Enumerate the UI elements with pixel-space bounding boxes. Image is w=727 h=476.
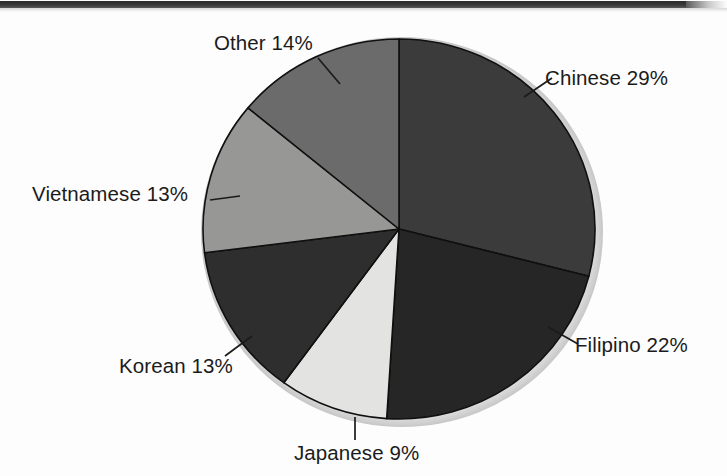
pie-label-filipino: Filipino 22%: [575, 335, 688, 356]
pie-label-japanese: Japanese 9%: [294, 443, 419, 464]
pie-label-korean: Korean 13%: [119, 356, 233, 377]
pie-label-vietnamese: Vietnamese 13%: [32, 184, 188, 205]
pie-slices-group: [203, 39, 595, 419]
pie-label-chinese: Chinese 29%: [545, 68, 668, 89]
pie-label-other: Other 14%: [214, 33, 313, 54]
pie-chart-page: Other 14% Chinese 29% Filipino 22% Japan…: [0, 0, 727, 476]
